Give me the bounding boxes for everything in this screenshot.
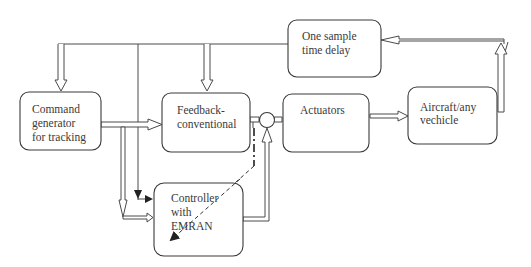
actuators-to-aircraft-arrow (370, 111, 408, 121)
controller-label-1: Controller (171, 192, 218, 204)
summing-junction (260, 113, 275, 128)
bus-to-controller-arrow (134, 190, 153, 203)
aircraft-label-2: vechicle (420, 114, 458, 126)
feedback-label-2: conventional (177, 118, 236, 130)
block-actuators: Actuators (283, 94, 369, 152)
controller-label-2: with (171, 206, 192, 218)
block-aircraft: Aircraft/any vechicle (408, 87, 497, 144)
bus-to-feedback-arrow (201, 44, 213, 91)
command-generator-label-2: generator (32, 117, 76, 130)
block-feedback-conventional: Feedback- conventional (162, 93, 250, 152)
block-controller-emran: Controller with EMRAN (154, 183, 243, 256)
command-to-controller-arrow (119, 127, 153, 222)
junction-to-actuators-link (275, 117, 283, 122)
feedback-label-1: Feedback- (177, 104, 225, 116)
aircraft-label-1: Aircraft/any (420, 101, 476, 114)
feedback-to-junction-link (250, 117, 259, 128)
delay-label-1: One sample (302, 30, 357, 43)
command-to-feedback-arrow (101, 119, 162, 130)
block-command-generator: Command generator for tracking (20, 92, 101, 150)
delay-label-2: time delay (302, 44, 350, 57)
actuators-label: Actuators (300, 104, 345, 116)
command-generator-label-3: for tracking (32, 131, 86, 144)
emran-control-diagram: Command generator for tracking Feedback-… (0, 0, 531, 267)
command-generator-label-1: Command (32, 103, 80, 115)
bus-to-command-arrow (55, 44, 67, 91)
block-one-sample-delay: One sample time delay (288, 20, 381, 77)
